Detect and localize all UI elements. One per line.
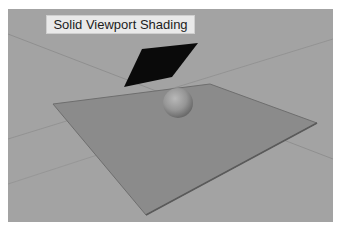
dark-card[interactable] <box>124 43 198 87</box>
sphere[interactable] <box>163 88 193 118</box>
scene-canvas <box>8 9 333 222</box>
viewport-shading-label: Solid Viewport Shading <box>46 15 195 34</box>
3d-viewport[interactable]: Solid Viewport Shading <box>8 9 333 222</box>
